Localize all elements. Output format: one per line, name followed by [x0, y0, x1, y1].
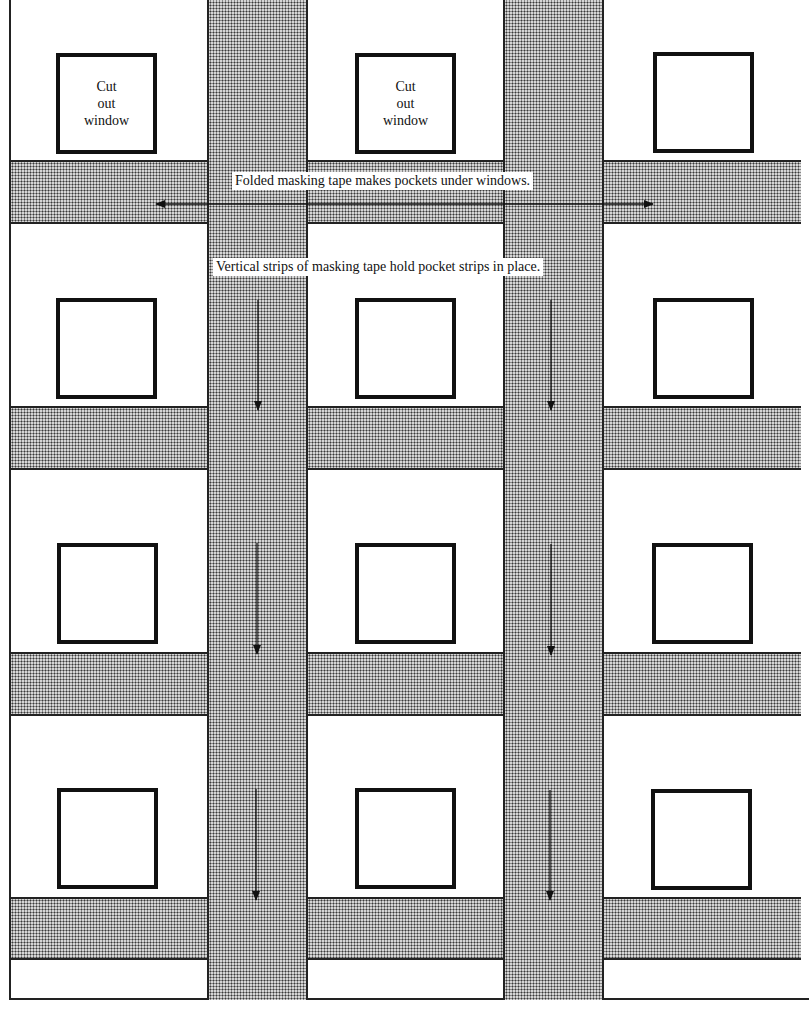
vertical-strip-annotation: Vertical strips of masking tape hold poc… [213, 258, 543, 276]
pocket-strip-row-4 [11, 897, 801, 960]
window-label-line: out [98, 95, 116, 112]
cut-out-window-r3-c1 [57, 543, 158, 644]
window-label-line: Cut [96, 78, 116, 95]
horizontal-strip-annotation: Folded masking tape makes pockets under … [232, 172, 533, 190]
pocket-strip-row-3 [11, 652, 801, 716]
cut-out-window-r4-c1 [57, 788, 158, 889]
cut-out-window-r2-c2 [355, 298, 456, 399]
cut-out-window-r2-c3 [653, 298, 754, 399]
pocket-strip-row-1 [11, 160, 801, 224]
cut-out-window-r3-c2 [355, 543, 456, 644]
pocket-strip-row-2 [11, 406, 801, 470]
vertical-holding-strip-1 [207, 0, 308, 1000]
cut-out-window-r2-c1 [56, 298, 157, 399]
window-label-line: out [397, 95, 415, 112]
cut-out-window-r4-c3 [651, 789, 752, 890]
window-label-line: window [84, 112, 129, 129]
cut-out-window-r1-c3 [653, 52, 754, 153]
cut-out-window-r1-c2: Cut out window [355, 53, 456, 154]
cut-out-window-r3-c3 [652, 543, 753, 644]
cut-out-window-r4-c2 [355, 788, 456, 889]
cut-out-window-r1-c1: Cut out window [56, 53, 157, 154]
window-label-line: Cut [395, 78, 415, 95]
vertical-holding-strip-2 [503, 0, 604, 1000]
window-label-line: window [383, 112, 428, 129]
